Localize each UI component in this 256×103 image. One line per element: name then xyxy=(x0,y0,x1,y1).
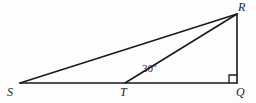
segment-SR xyxy=(20,14,237,83)
angle-value: 30 xyxy=(142,62,153,74)
vertex-label-r: R xyxy=(238,1,245,13)
degree-symbol-icon: o xyxy=(153,61,157,69)
triangle-diagram-svg xyxy=(0,0,256,103)
angle-label-rtq: 30o xyxy=(142,62,157,74)
right-angle-marker-icon xyxy=(229,75,237,83)
vertex-label-s: S xyxy=(7,86,13,98)
vertex-label-t: T xyxy=(120,86,127,98)
geometry-figure: S T Q R 30o xyxy=(0,0,256,103)
vertex-label-q: Q xyxy=(236,86,245,98)
